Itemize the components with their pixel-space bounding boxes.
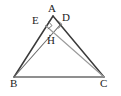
altitudes: [14, 25, 104, 78]
vertex-label-e: E: [32, 15, 39, 26]
vertex-label-d: D: [62, 12, 70, 23]
geometry-figure: A B C D E H: [0, 0, 121, 96]
vertex-label-h: H: [47, 35, 55, 46]
vertex-label-a: A: [48, 3, 56, 14]
triangle-sides: [14, 16, 104, 77]
vertex-label-b: B: [10, 78, 17, 89]
vertex-label-c: C: [100, 78, 107, 89]
